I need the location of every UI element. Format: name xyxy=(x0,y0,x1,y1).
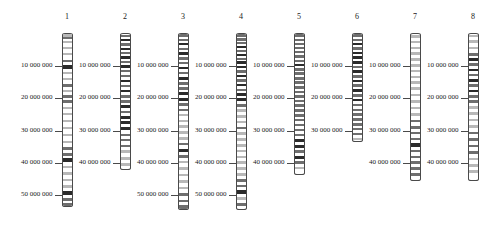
chromosome-band xyxy=(63,203,72,206)
chromosome-bar xyxy=(62,33,73,207)
chromosome-band xyxy=(353,89,362,92)
chromosome-band xyxy=(237,38,246,40)
axis-tick-mark xyxy=(229,195,236,196)
chromosome-band xyxy=(411,87,420,90)
axis-tick-mark xyxy=(461,66,468,67)
chromosome-band xyxy=(469,151,478,154)
chromosome-band xyxy=(469,132,478,135)
chromosome-band xyxy=(295,39,304,41)
axis-tick-label: 10 000 000 xyxy=(399,62,459,69)
chromosome-band xyxy=(411,138,420,141)
chromosome-band xyxy=(469,90,478,93)
chromosome-bar xyxy=(468,33,479,181)
chromosome-band xyxy=(121,105,130,108)
chromosome-band xyxy=(411,143,420,146)
axis-tick-label: 40 000 000 xyxy=(0,159,53,166)
chromosome-band xyxy=(63,53,72,55)
chromosome-band xyxy=(237,104,246,107)
chromosome-band xyxy=(237,179,246,182)
axis-tick-label: 50 000 000 xyxy=(109,191,169,198)
chromosome-band xyxy=(469,125,478,128)
axis-tick-label: 40 000 000 xyxy=(109,159,169,166)
chromosome-band xyxy=(411,76,420,79)
chromosome-band xyxy=(121,111,130,114)
chromosome-band xyxy=(179,174,188,177)
chromosome-band xyxy=(179,143,188,146)
chromosome-band xyxy=(237,42,246,44)
chromosome-band xyxy=(237,197,246,200)
chromosome-band xyxy=(179,155,188,158)
axis-tick-label: 40 000 000 xyxy=(399,159,459,166)
chromosome-band xyxy=(469,112,478,115)
axis-tick-mark xyxy=(461,98,468,99)
chromosome-band xyxy=(237,203,246,206)
chromosome-band xyxy=(295,81,304,84)
chromosome-band xyxy=(237,115,246,118)
chromosome-bar xyxy=(236,33,247,210)
chromosome-band xyxy=(179,200,188,203)
chromosome-band xyxy=(295,167,304,170)
chromosome-band xyxy=(121,35,130,37)
chromosome-band xyxy=(353,80,362,83)
chromosome-band xyxy=(121,75,130,77)
chromosome-band xyxy=(63,47,72,49)
axis-tick-label: 20 000 000 xyxy=(167,94,227,101)
axis-tick-label: 20 000 000 xyxy=(283,94,343,101)
axis-tick-label: 50 000 000 xyxy=(167,191,227,198)
axis-tick-label: 40 000 000 xyxy=(341,159,401,166)
chromosome-band xyxy=(353,39,362,41)
chromosome-band xyxy=(237,144,246,147)
chromosome-band xyxy=(179,82,188,85)
chromosome-band xyxy=(353,118,362,121)
ideogram-figure: 110 000 00020 000 00030 000 00040 000 00… xyxy=(0,0,493,229)
chromosome-band xyxy=(63,78,72,80)
chromosome-band xyxy=(237,34,246,36)
chromosome-band xyxy=(237,50,246,52)
chromosome-band xyxy=(179,43,188,45)
chromosome-band xyxy=(121,70,130,72)
chromosome-band xyxy=(295,145,304,148)
chromosome-band xyxy=(179,77,188,80)
chromosome-band xyxy=(63,120,72,122)
chromosome-band xyxy=(295,104,304,107)
chromosome-band xyxy=(295,119,304,122)
chromosome-band xyxy=(179,109,188,112)
chromosome-band xyxy=(121,56,130,59)
chromosome-number-label: 5 xyxy=(279,12,319,22)
chromosome-band xyxy=(121,43,130,45)
chromosome-band xyxy=(353,56,362,59)
axis-tick-mark xyxy=(287,163,294,164)
chromosome-band xyxy=(411,100,420,103)
chromosome-band xyxy=(411,35,420,38)
chromosome-band xyxy=(353,113,362,116)
chromosome-band xyxy=(63,198,72,201)
chromosome-band xyxy=(63,72,72,74)
chromosome-band xyxy=(121,52,130,54)
axis-tick-label: 30 000 000 xyxy=(109,127,169,134)
chromosome-band xyxy=(237,46,246,48)
axis-tick-label: 10 000 000 xyxy=(51,62,111,69)
chromosome-band xyxy=(469,35,478,37)
chromosome-band xyxy=(63,41,72,43)
chromosome-band xyxy=(237,190,246,193)
chromosome-band xyxy=(411,113,420,116)
chromosome-band xyxy=(121,100,130,103)
chromosome-band xyxy=(295,34,304,36)
chromosome-band xyxy=(121,48,130,50)
axis-tick-label: 30 000 000 xyxy=(341,127,401,134)
chromosome-band xyxy=(237,150,246,153)
chromosome-band xyxy=(353,47,362,50)
axis-tick-label: 20 000 000 xyxy=(225,94,285,101)
chromosome-band xyxy=(411,107,420,110)
axis-tick-mark xyxy=(55,195,62,196)
chromosome-band xyxy=(411,173,420,176)
chromosome-band xyxy=(411,150,420,153)
chromosome-band xyxy=(295,72,304,75)
chromosome-bar xyxy=(120,33,131,170)
chromosome-band xyxy=(237,173,246,176)
chromosome-bar xyxy=(178,33,189,210)
axis-tick-label: 10 000 000 xyxy=(109,62,169,69)
chromosome-band xyxy=(295,77,304,80)
axis-tick-label: 30 000 000 xyxy=(51,127,111,134)
chromosome-band xyxy=(179,120,188,123)
